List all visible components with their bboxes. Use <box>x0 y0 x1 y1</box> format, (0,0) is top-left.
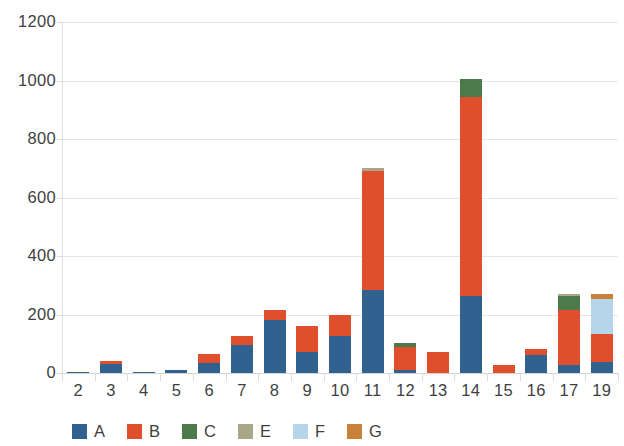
y-axis-tick-label: 1200 <box>0 13 56 30</box>
x-axis-tick-label: 15 <box>487 381 520 400</box>
legend-label: A <box>94 423 105 440</box>
bar-segment-b[interactable] <box>362 171 384 289</box>
bar-group[interactable] <box>558 294 580 373</box>
stacked-bar-chart: 020040060080010001200 234567891011121314… <box>0 0 624 446</box>
y-axis-tick <box>57 198 62 199</box>
bar-group[interactable] <box>362 168 384 373</box>
y-axis-tick <box>57 81 62 82</box>
bar-segment-c[interactable] <box>558 296 580 310</box>
bar-segment-f[interactable] <box>591 299 613 334</box>
x-axis-tick-label: 2 <box>62 381 95 400</box>
bar-segment-a[interactable] <box>329 336 351 373</box>
bar-group[interactable] <box>591 294 613 373</box>
bar-group[interactable] <box>525 349 547 373</box>
x-axis-tick-label: 3 <box>95 381 128 400</box>
x-axis-tick <box>95 373 96 381</box>
bar-group[interactable] <box>100 361 122 373</box>
bars-layer <box>62 22 618 373</box>
bar-segment-a[interactable] <box>558 365 580 373</box>
legend-swatch-b <box>127 424 142 439</box>
y-axis-labels: 020040060080010001200 <box>0 0 56 446</box>
bar-segment-b[interactable] <box>198 354 220 363</box>
bar-segment-a[interactable] <box>231 345 253 373</box>
bar-group[interactable] <box>296 326 318 373</box>
x-axis-tick <box>226 373 227 381</box>
x-axis-tick-label: 17 <box>553 381 586 400</box>
bar-segment-a[interactable] <box>264 320 286 373</box>
legend-label: E <box>260 423 271 440</box>
bar-group[interactable] <box>231 336 253 373</box>
y-axis-tick <box>57 256 62 257</box>
x-axis-tick-label: 4 <box>127 381 160 400</box>
x-axis-tick-label: 11 <box>356 381 389 400</box>
legend-item-f[interactable]: F <box>293 423 325 440</box>
legend-label: C <box>204 423 216 440</box>
y-axis-tick <box>57 139 62 140</box>
x-axis-tick <box>487 373 488 381</box>
x-axis-tick <box>193 373 194 381</box>
legend-swatch-g <box>347 424 362 439</box>
bar-segment-c[interactable] <box>460 79 482 97</box>
bar-group[interactable] <box>264 310 286 373</box>
x-axis-tick <box>553 373 554 381</box>
bar-segment-b[interactable] <box>296 326 318 352</box>
x-axis-tick <box>62 373 63 381</box>
legend-swatch-e <box>238 424 253 439</box>
x-axis-tick-label: 13 <box>422 381 455 400</box>
bar-segment-b[interactable] <box>591 334 613 363</box>
bar-segment-b[interactable] <box>427 352 449 373</box>
x-axis-tick <box>291 373 292 381</box>
bar-segment-a[interactable] <box>591 362 613 373</box>
x-axis-ticks <box>62 373 618 381</box>
legend-swatch-a <box>72 424 87 439</box>
bar-group[interactable] <box>329 315 351 373</box>
bar-group[interactable] <box>460 79 482 373</box>
bar-segment-b[interactable] <box>558 310 580 365</box>
bar-segment-b[interactable] <box>329 315 351 336</box>
bar-group[interactable] <box>427 352 449 373</box>
x-axis-tick-label: 14 <box>454 381 487 400</box>
legend-item-e[interactable]: E <box>238 423 271 440</box>
bar-segment-a[interactable] <box>100 364 122 373</box>
bar-group[interactable] <box>394 343 416 373</box>
bar-group[interactable] <box>198 354 220 373</box>
x-axis-tick <box>127 373 128 381</box>
y-axis-tick-label: 800 <box>0 130 56 147</box>
y-axis-tick <box>57 315 62 316</box>
x-axis-tick-label: 6 <box>193 381 226 400</box>
bar-segment-a[interactable] <box>296 352 318 373</box>
bar-segment-b[interactable] <box>493 365 515 373</box>
y-axis-tick-label: 200 <box>0 306 56 323</box>
y-axis-tick <box>57 373 62 374</box>
legend-item-a[interactable]: A <box>72 423 105 440</box>
x-axis-tick <box>258 373 259 381</box>
legend-label: F <box>315 423 325 440</box>
bar-segment-a[interactable] <box>525 355 547 373</box>
legend-item-c[interactable]: C <box>182 423 216 440</box>
x-axis-tick <box>160 373 161 381</box>
y-axis-tick-label: 400 <box>0 247 56 264</box>
bar-segment-a[interactable] <box>198 363 220 373</box>
bar-segment-b[interactable] <box>231 336 253 345</box>
x-axis-tick <box>324 373 325 381</box>
x-axis-tick <box>520 373 521 381</box>
legend-item-b[interactable]: B <box>127 423 160 440</box>
legend-item-g[interactable]: G <box>347 423 382 440</box>
bar-segment-b[interactable] <box>394 347 416 370</box>
y-axis-tick-label: 0 <box>0 364 56 381</box>
y-axis-tick-label: 1000 <box>0 72 56 89</box>
x-axis-tick <box>585 373 586 381</box>
bar-segment-b[interactable] <box>460 97 482 296</box>
x-axis-tick-label: 16 <box>520 381 553 400</box>
x-axis-tick <box>422 373 423 381</box>
bar-segment-b[interactable] <box>264 310 286 320</box>
bar-group[interactable] <box>493 365 515 373</box>
bar-segment-a[interactable] <box>460 296 482 374</box>
bar-segment-a[interactable] <box>362 290 384 373</box>
x-axis-tick-label: 10 <box>324 381 357 400</box>
legend-label: B <box>149 423 160 440</box>
x-axis-tick-label: 7 <box>226 381 259 400</box>
x-axis-tick <box>356 373 357 381</box>
plot-area <box>62 22 618 373</box>
x-axis-tick <box>454 373 455 381</box>
